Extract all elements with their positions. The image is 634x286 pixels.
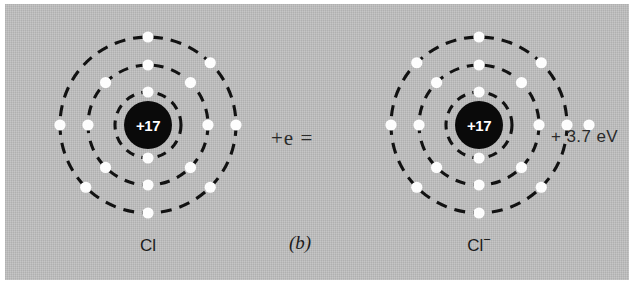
electron-outer: [54, 119, 65, 130]
species-label-ion: Cl−: [374, 232, 584, 256]
species-symbol-ion: Cl: [467, 236, 483, 255]
nucleus-ion: +17: [455, 101, 503, 149]
species-symbol-neutral: Cl: [140, 236, 156, 255]
atom-neutral-chlorine: +17 Cl: [43, 20, 253, 230]
species-label-neutral: Cl: [43, 232, 253, 256]
electron-middle: [185, 77, 196, 88]
electron-middle: [533, 119, 544, 130]
electron-middle: [516, 77, 527, 88]
electron-middle: [413, 119, 424, 130]
electron-outer: [411, 182, 422, 193]
electron-outer: [142, 31, 153, 42]
electron-outer: [205, 182, 216, 193]
electron-middle: [142, 59, 153, 70]
electron-inner: [142, 152, 153, 163]
electron-outer: [473, 31, 484, 42]
electron-middle: [431, 162, 442, 173]
electron-outer: [411, 57, 422, 68]
electron-middle: [202, 119, 213, 130]
electron-outer: [205, 57, 216, 68]
electron-outer: [385, 119, 396, 130]
atom-chloride-ion: +17 Cl−: [374, 20, 584, 230]
electron-inner: [142, 86, 153, 97]
electron-middle: [473, 59, 484, 70]
energy-released-text: + 3.7 eV: [551, 127, 618, 146]
electron-outer: [473, 207, 484, 218]
figure-caption: (b): [289, 232, 311, 254]
electron-outer: [142, 207, 153, 218]
figure-root: +17 Cl +e = +17 Cl− + 3.7 eV (b): [0, 0, 634, 286]
added-electron-term: +e =: [271, 126, 313, 151]
electron-middle: [185, 162, 196, 173]
electron-inner: [473, 86, 484, 97]
electron-middle: [473, 179, 484, 190]
energy-released-label: + 3.7 eV: [551, 127, 618, 147]
electron-middle: [100, 162, 111, 173]
electron-middle: [142, 179, 153, 190]
electron-middle: [82, 119, 93, 130]
electron-outer: [80, 182, 91, 193]
added-electron-text: +e =: [271, 126, 313, 150]
electron-outer: [536, 182, 547, 193]
electron-outer: [230, 119, 241, 130]
nucleus-neutral: +17: [124, 101, 172, 149]
electron-outer: [536, 57, 547, 68]
electron-inner: [473, 152, 484, 163]
electron-middle: [431, 77, 442, 88]
electron-middle: [516, 162, 527, 173]
electron-middle: [100, 77, 111, 88]
species-charge-ion: −: [483, 232, 491, 247]
